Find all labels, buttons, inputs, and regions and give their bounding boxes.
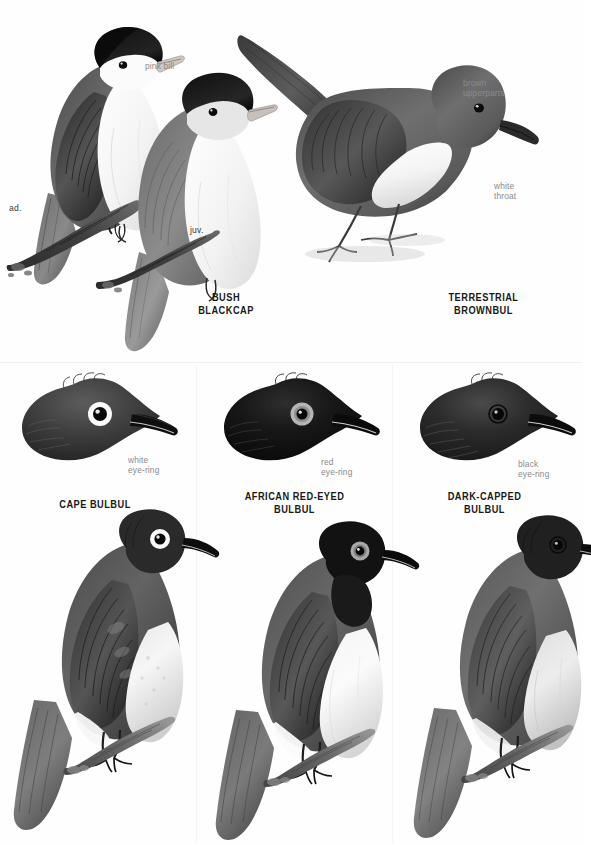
annotation-black-eye-ring: black eye-ring bbox=[518, 460, 549, 479]
darkcapped-body-bill bbox=[580, 544, 591, 563]
figure-dark-capped-bulbul-body bbox=[406, 524, 591, 844]
species-name-african-red-eyed-bulbul: AFRICAN RED-EYED BULBUL bbox=[231, 490, 359, 515]
species-name-bush-blackcap: BUSH BLACKCAP bbox=[182, 291, 270, 316]
redeyed-body-tail bbox=[216, 710, 274, 840]
panel-terrestrial-brownbul: brown upperparts white throat TERRESTRIA… bbox=[291, 0, 582, 350]
figure-dark-capped-bulbul-head bbox=[404, 370, 584, 485]
panel-cape-bulbul-body bbox=[0, 514, 196, 845]
darkcapped-body-tail bbox=[414, 708, 472, 838]
juv-eye bbox=[209, 108, 218, 116]
figure-african-red-eyed-bulbul-head bbox=[208, 370, 388, 485]
panel-african-red-eyed-bulbul-body bbox=[196, 514, 392, 845]
brownbul-eye bbox=[474, 103, 484, 112]
cape-eye bbox=[93, 407, 107, 421]
species-name-dark-capped-bulbul: DARK-CAPPED BULBUL bbox=[421, 490, 549, 515]
panel-african-red-eyed-bulbul-head: red eye-ring AFRICAN RED-EYED BULBUL bbox=[196, 364, 392, 514]
species-name-cape-bulbul: CAPE BULBUL bbox=[38, 498, 152, 511]
panel-dark-capped-bulbul-head: black eye-ring DARK-CAPPED BULBUL bbox=[392, 364, 582, 514]
figure-african-red-eyed-bulbul-body bbox=[208, 530, 393, 845]
label-juvenile: juv. bbox=[190, 225, 204, 235]
annotation-white-throat: white throat bbox=[494, 182, 516, 201]
figure-cape-bulbul-body bbox=[8, 518, 193, 843]
label-adult: ad. bbox=[9, 203, 22, 213]
redeyed-body-eye bbox=[356, 547, 365, 556]
annotation-pink-bill: pink bill bbox=[145, 62, 174, 72]
adult-eye bbox=[119, 61, 127, 69]
annotation-white-eye-ring: white eye-ring bbox=[128, 456, 159, 475]
species-name-terrestrial-brownbul: TERRESTRIAL BROWNBUL bbox=[429, 291, 539, 316]
redeyed-eye bbox=[297, 409, 308, 420]
annotation-red-eye-ring: red eye-ring bbox=[321, 458, 352, 477]
figure-terrestrial-brownbul bbox=[231, 16, 551, 266]
annotation-brown-upperparts: brown upperparts bbox=[463, 79, 505, 98]
section-divider bbox=[0, 362, 582, 363]
panel-cape-bulbul-head: white eye-ring CAPE BULBUL bbox=[0, 364, 196, 514]
panel-dark-capped-bulbul-body bbox=[392, 514, 582, 845]
cape-body-tail bbox=[14, 700, 72, 830]
darkcapped-body-eye bbox=[553, 540, 563, 550]
cape-body-eye bbox=[154, 533, 165, 544]
darkcapped-eye bbox=[492, 408, 504, 420]
